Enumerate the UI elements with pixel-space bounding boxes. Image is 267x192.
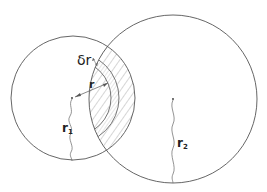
r2-brace — [172, 100, 174, 183]
r2-label: r2 — [177, 137, 188, 151]
circles-diagram — [0, 0, 267, 192]
diagram-canvas: δr r r1 r2 — [0, 0, 267, 192]
circle-2-center — [172, 98, 174, 100]
circle-1-center — [71, 97, 73, 99]
r1-label-sub: 1 — [68, 128, 73, 136]
r-label: r — [89, 79, 94, 90]
delta-r-label: δr — [77, 53, 91, 67]
r1-label: r1 — [62, 122, 73, 136]
r2-label-sub: 2 — [183, 143, 188, 151]
